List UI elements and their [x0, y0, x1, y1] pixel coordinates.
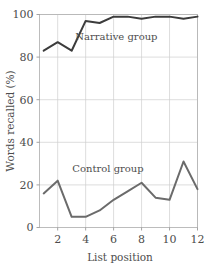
y-axis-title: Words recalled (%): [4, 70, 16, 171]
tick-label-x: 6: [110, 233, 117, 246]
tick-label-x: 10: [163, 233, 177, 246]
tick-label-y: 40: [20, 136, 34, 149]
tick-label-y: 80: [20, 51, 34, 64]
x-axis-title: List position: [87, 251, 153, 263]
tick-label-y: 60: [20, 94, 34, 107]
tick-label-x: 8: [138, 233, 145, 246]
annotation-control-group: Control group: [72, 163, 143, 174]
tick-label-y: 20: [20, 179, 34, 192]
tick-label-y: 0: [27, 221, 34, 234]
line-chart: 020406080100 24681012 Narrative group Co…: [0, 0, 206, 266]
tick-label-x: 12: [191, 233, 205, 246]
chart-figure: 020406080100 24681012 Narrative group Co…: [0, 0, 206, 266]
annotation-narrative-group: Narrative group: [75, 31, 157, 42]
tick-label-y: 100: [13, 8, 34, 21]
tick-label-x: 2: [54, 233, 61, 246]
tick-label-x: 4: [82, 233, 89, 246]
